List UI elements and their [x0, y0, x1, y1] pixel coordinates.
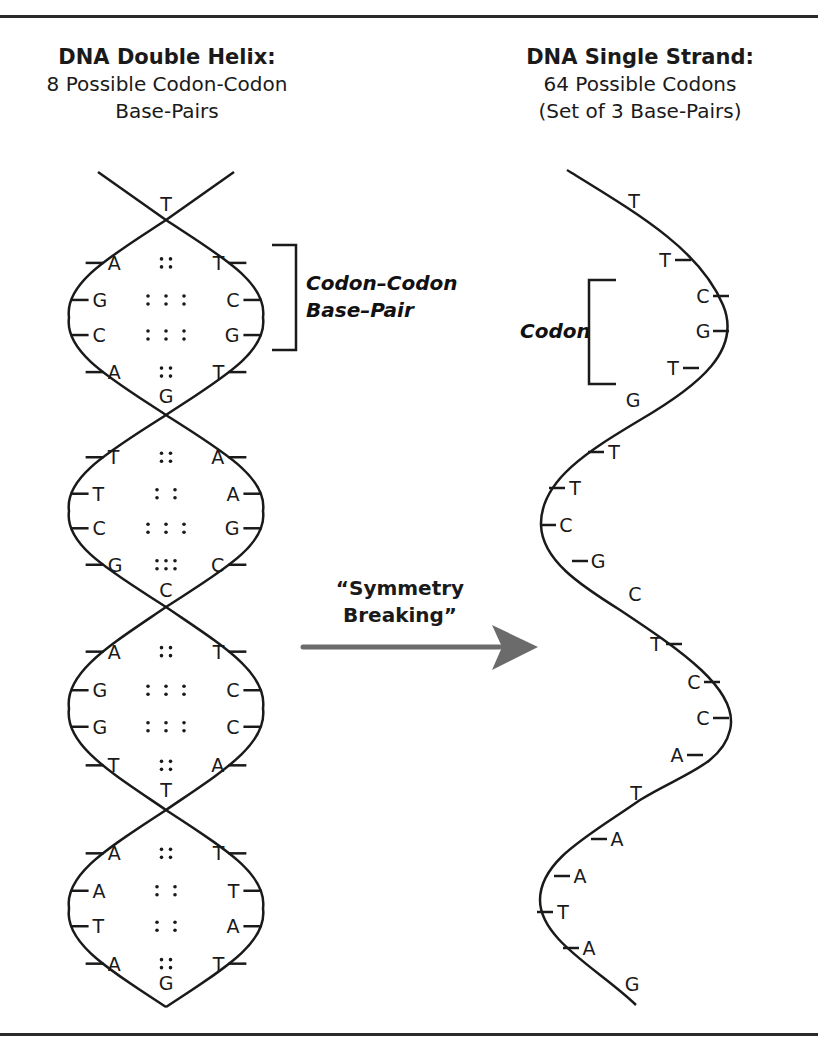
strand-base: C	[696, 285, 709, 307]
base-left: G	[93, 716, 108, 738]
base-left: T	[92, 915, 105, 937]
strand-base: T	[556, 901, 569, 923]
strand-base: T	[627, 190, 640, 212]
base-right: T	[212, 842, 225, 864]
helix-strand-right	[166, 810, 263, 1007]
base-right: C	[226, 679, 239, 701]
helix-strand-right	[166, 220, 263, 415]
strand-base: T	[568, 477, 581, 499]
base-left: A	[108, 252, 121, 274]
base-right: G	[225, 517, 240, 539]
symmetry-breaking-arrow	[303, 625, 538, 670]
base-left: G	[93, 289, 108, 311]
strand-base: C	[628, 583, 641, 605]
strand-base: A	[671, 744, 684, 766]
codon-bracket	[589, 280, 616, 384]
crossing-base: T	[159, 193, 172, 215]
helix-strand-right	[166, 607, 263, 810]
base-right: A	[226, 915, 239, 937]
codon-codon-bracket	[272, 245, 296, 350]
base-right: T	[227, 880, 240, 902]
strand-base: G	[625, 973, 640, 995]
base-left: G	[108, 554, 123, 576]
base-left: A	[108, 641, 121, 663]
strand-base: T	[666, 357, 679, 379]
helix-strand-left	[69, 220, 166, 415]
double-helix: ATGCCGATTATACGGCATGCGCTAATATTAATTGCTG	[69, 172, 264, 1007]
base-left: T	[107, 446, 120, 468]
strand-base: C	[687, 671, 700, 693]
strand-base: A	[583, 937, 596, 959]
base-right: A	[211, 754, 224, 776]
base-right: T	[212, 953, 225, 975]
base-left: C	[93, 324, 106, 346]
strand-base: T	[649, 633, 662, 655]
base-right: C	[211, 554, 224, 576]
base-left: A	[108, 842, 121, 864]
base-right: A	[211, 446, 224, 468]
crossing-base: C	[159, 579, 172, 601]
helix-strand-right	[166, 415, 263, 607]
base-right: T	[212, 252, 225, 274]
strand-base: G	[591, 550, 606, 572]
base-right: A	[226, 483, 239, 505]
single-strand: TTCGTGTTCGCTCCATAATAG	[537, 170, 731, 1005]
strand-base: G	[696, 320, 711, 342]
strand-base: A	[611, 828, 624, 850]
crossing-base: T	[159, 779, 172, 801]
helix-strand-left	[69, 415, 166, 607]
base-left: G	[93, 679, 108, 701]
strand-base: A	[574, 865, 587, 887]
base-right: G	[225, 324, 240, 346]
helix-strand-left	[69, 607, 166, 810]
base-left: A	[108, 953, 121, 975]
strand-base: T	[607, 441, 620, 463]
strand-base: C	[696, 707, 709, 729]
crossing-base: G	[159, 972, 174, 994]
base-left: T	[92, 483, 105, 505]
base-left: A	[93, 880, 106, 902]
base-left: A	[108, 361, 121, 383]
dna-diagram: ATGCCGATTATACGGCATGCGCTAATATTAATTGCTG TT…	[0, 0, 839, 1063]
base-right: C	[226, 289, 239, 311]
crossing-base: G	[159, 385, 174, 407]
base-left: C	[93, 517, 106, 539]
base-right: C	[226, 716, 239, 738]
strand-base: G	[626, 389, 641, 411]
base-right: T	[212, 361, 225, 383]
strand-base: T	[658, 249, 671, 271]
base-left: T	[107, 754, 120, 776]
strand-base: T	[629, 782, 642, 804]
helix-strand-left	[69, 810, 166, 1007]
base-right: T	[212, 641, 225, 663]
strand-base: C	[559, 514, 572, 536]
